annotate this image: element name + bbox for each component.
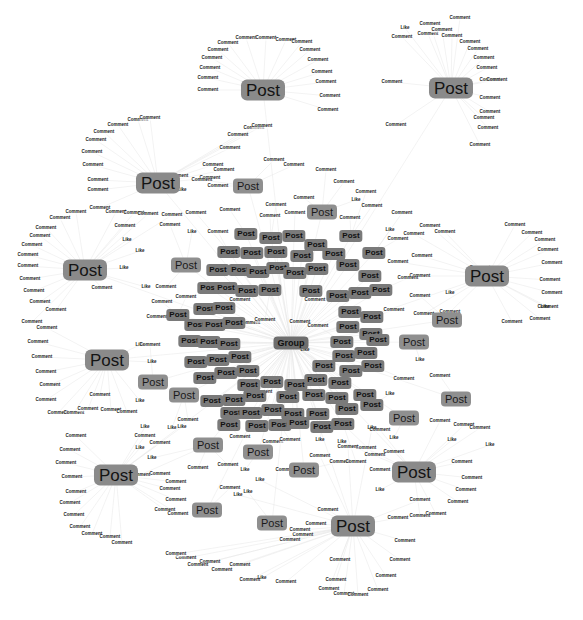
post-node-small[interactable]: Post [361, 360, 384, 372]
post-node-small[interactable]: Post [286, 417, 309, 429]
comment-node[interactable]: Comment [477, 66, 498, 71]
post-node-small[interactable]: Post [360, 399, 383, 411]
comment-node[interactable]: Comment [280, 538, 301, 543]
comment-node[interactable]: Comment [252, 124, 273, 129]
comment-node[interactable]: Comment [346, 460, 367, 465]
post-node-large[interactable]: Post [136, 173, 180, 194]
comment-node[interactable]: Comment [166, 498, 187, 503]
post-node-small[interactable]: Post [299, 285, 322, 297]
like-node[interactable]: Like [540, 305, 549, 310]
comment-node[interactable]: Comment [410, 514, 431, 519]
comment-node[interactable]: Comment [92, 286, 113, 291]
post-node-small[interactable]: Post [214, 367, 237, 379]
post-node-medium[interactable]: Post [171, 258, 201, 273]
comment-node[interactable]: Comment [64, 513, 85, 518]
comment-node[interactable]: Comment [218, 463, 239, 468]
post-node-small[interactable]: Post [214, 282, 237, 294]
comment-node[interactable]: Comment [318, 508, 339, 513]
comment-node[interactable]: Comment [83, 163, 104, 168]
post-node-small[interactable]: Post [259, 232, 282, 244]
post-node-small[interactable]: Post [236, 365, 259, 377]
comment-node[interactable]: Comment [94, 130, 115, 135]
comment-node[interactable]: Comment [150, 441, 171, 446]
comment-node[interactable]: Comment [468, 47, 489, 52]
post-node-large[interactable]: Post [465, 266, 509, 287]
comment-node[interactable]: Comment [188, 563, 209, 568]
post-node-medium[interactable]: Post [138, 375, 168, 390]
comment-node[interactable]: Comment [220, 208, 241, 213]
comment-node[interactable]: Comment [202, 56, 223, 61]
comment-node[interactable]: Comment [78, 407, 99, 412]
post-node-small[interactable]: Post [264, 246, 287, 258]
post-node-small[interactable]: Post [330, 336, 353, 348]
like-node[interactable]: Like [243, 490, 252, 495]
comment-node[interactable]: Comment [430, 374, 451, 379]
post-node-small[interactable]: Post [258, 284, 281, 296]
post-node-small[interactable]: Post [360, 311, 383, 323]
post-node-small[interactable]: Post [234, 228, 257, 240]
comment-node[interactable]: Comment [384, 450, 405, 455]
comment-node[interactable]: Comment [46, 308, 67, 313]
comment-node[interactable]: Comment [300, 48, 321, 53]
comment-node[interactable]: Comment [418, 32, 439, 37]
post-node-small[interactable]: Post [212, 302, 235, 314]
post-node-small[interactable]: Post [302, 389, 325, 401]
post-node-small[interactable]: Post [305, 263, 328, 275]
comment-node[interactable]: Comment [192, 178, 213, 183]
comment-node[interactable]: Comment [22, 243, 43, 248]
post-node-large[interactable]: Post [94, 465, 138, 486]
post-node-small[interactable]: Post [336, 259, 359, 271]
post-node-small[interactable]: Post [217, 246, 240, 258]
comment-node[interactable]: Comment [452, 460, 473, 465]
post-node-small[interactable]: Post [240, 247, 263, 259]
comment-node[interactable]: Comment [266, 203, 287, 208]
comment-node[interactable]: Comment [362, 204, 383, 209]
comment-node[interactable]: Comment [30, 234, 51, 239]
post-node-small[interactable]: Post [243, 390, 266, 402]
like-node[interactable]: Like [367, 426, 376, 431]
comment-node[interactable]: Comment [432, 28, 453, 33]
comment-node[interactable]: Comment [356, 446, 377, 451]
comment-node[interactable]: Comment [218, 41, 239, 46]
comment-node[interactable]: Comment [115, 224, 136, 229]
post-node-small[interactable]: Post [206, 264, 229, 276]
comment-node[interactable]: Comment [82, 150, 103, 155]
comment-node[interactable]: Comment [208, 230, 229, 235]
like-node[interactable]: Like [119, 266, 128, 271]
post-node-small[interactable]: Post [348, 287, 371, 299]
post-node-small[interactable]: Post [282, 230, 305, 242]
post-node-small[interactable]: Post [306, 408, 329, 420]
post-node-large[interactable]: Post [429, 78, 473, 99]
comment-node[interactable]: Comment [18, 253, 39, 258]
post-node-small[interactable]: Post [328, 377, 351, 389]
comment-node[interactable]: Comment [480, 96, 501, 101]
comment-node[interactable]: Comment [90, 393, 111, 398]
comment-node[interactable]: Comment [86, 138, 107, 143]
comment-node[interactable]: Comment [178, 418, 199, 423]
post-node-small[interactable]: Post [222, 394, 245, 406]
comment-node[interactable]: Comment [150, 472, 171, 477]
comment-node[interactable]: Comment [530, 317, 551, 322]
like-node[interactable]: Like [389, 436, 398, 441]
comment-node[interactable]: Comment [388, 260, 409, 265]
comment-node[interactable]: Comment [40, 383, 61, 388]
post-node-small[interactable]: Post [362, 247, 385, 259]
post-node-small[interactable]: Post [206, 354, 229, 366]
comment-node[interactable]: Comment [66, 434, 87, 439]
comment-node[interactable]: Comment [312, 70, 333, 75]
comment-node[interactable]: Comment [166, 552, 187, 557]
comment-node[interactable]: Comment [340, 216, 361, 221]
post-node-medium[interactable]: Post [289, 463, 319, 478]
like-node[interactable]: Like [485, 443, 494, 448]
comment-node[interactable]: Comment [294, 196, 315, 201]
comment-node[interactable]: Comment [37, 326, 58, 331]
post-node-medium[interactable]: Post [243, 445, 273, 460]
post-node-medium[interactable]: Post [389, 411, 419, 426]
comment-node[interactable]: Comment [200, 66, 221, 71]
like-node[interactable]: Like [415, 358, 424, 363]
comment-node[interactable]: Comment [255, 318, 276, 323]
comment-node[interactable]: Comment [230, 435, 251, 440]
post-node-small[interactable]: Post [312, 360, 335, 372]
comment-node[interactable]: Comment [256, 36, 277, 41]
post-node-medium[interactable]: Post [432, 313, 462, 328]
